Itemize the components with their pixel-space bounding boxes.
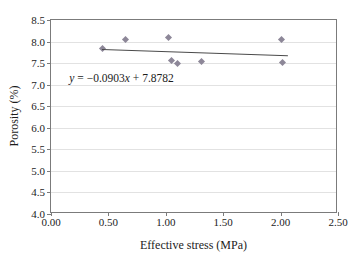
y-axis-tick <box>47 149 51 150</box>
x-axis-tick-label: 0.50 <box>99 217 118 228</box>
x-axis-tick-label: 2.50 <box>328 217 347 228</box>
gridline <box>51 42 336 43</box>
y-axis-tick <box>47 192 51 193</box>
gridline <box>51 128 336 129</box>
y-axis-tick-label: 7.0 <box>31 79 45 90</box>
y-axis-tick-label: 8.0 <box>31 36 45 47</box>
y-axis-tick-label: 4.5 <box>31 187 45 198</box>
y-axis-tick <box>47 171 51 172</box>
plot-area: 4.04.55.05.56.06.57.07.58.08.5 0.000.501… <box>50 19 337 213</box>
gridline <box>51 171 336 172</box>
trendline-equation: y = −0.0903x + 7.8782 <box>69 72 173 84</box>
equation-slope-part: = −0.0903 <box>74 72 124 84</box>
y-axis-tick-label: 8.5 <box>31 15 45 26</box>
y-axis-tick <box>47 85 51 86</box>
y-axis-tick <box>47 63 51 64</box>
y-axis-tick-label: 6.0 <box>31 122 45 133</box>
porosity-effective-stress-chart: ······· 4.04.55.05.56.06.57.07.58.08.5 0… <box>0 0 363 262</box>
y-axis-tick-label: 5.0 <box>31 165 45 176</box>
gridline <box>51 63 336 64</box>
y-axis-tick <box>47 42 51 43</box>
y-axis-tick <box>47 20 51 21</box>
y-axis-tick-label: 6.5 <box>31 101 45 112</box>
x-axis-tick-label: 0.00 <box>41 217 60 228</box>
gridline <box>51 192 336 193</box>
y-axis-title: Porosity (%) <box>8 86 21 147</box>
y-axis-tick-label: 5.5 <box>31 144 45 155</box>
y-axis-tick <box>47 128 51 129</box>
equation-intercept-part: + 7.8782 <box>130 72 174 84</box>
data-point-marker <box>165 34 172 41</box>
data-point-marker <box>279 59 286 66</box>
gridline <box>51 106 336 107</box>
data-point-marker <box>174 60 181 67</box>
trendline <box>101 49 287 57</box>
y-axis-tick-label: 7.5 <box>31 58 45 69</box>
x-axis-title: Effective stress (MPa) <box>50 239 337 252</box>
gridline <box>51 85 336 86</box>
gridline <box>51 149 336 150</box>
x-axis-tick-label: 1.50 <box>214 217 233 228</box>
y-axis-tick <box>47 106 51 107</box>
x-axis-tick-label: 1.00 <box>156 217 175 228</box>
x-axis-tick-label: 2.00 <box>271 217 290 228</box>
